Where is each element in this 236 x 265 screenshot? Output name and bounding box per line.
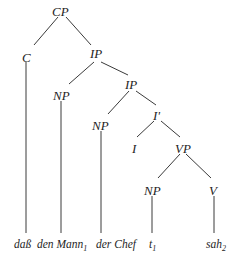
node-i-bar: I' [152,108,160,123]
edge-ibar-vp [161,121,180,137]
tree-svg: CP C IP NP IP NP I' I VP NP V daß den Ma… [0,0,236,265]
edge-ibar-i [137,121,154,137]
node-ip-1: IP [89,46,102,61]
edge-vp-v [186,154,211,178]
edge-cp-ip [66,17,91,45]
node-np-1: NP [52,88,70,103]
leaf-der-chef: der Chef [96,238,138,251]
node-np-2: NP [91,118,109,133]
edge-ip-ip [101,62,128,75]
leaf-trace-index: 1 [152,244,156,253]
leaf-den-mann: den Mann1 [37,238,87,253]
leaf-sah-text: sah [206,238,222,250]
leaf-sah-index: 2 [222,244,226,253]
leaf-den-mann-index: 1 [83,244,87,253]
node-vp: VP [175,141,191,156]
edge-cp-c [34,17,58,45]
leaf-der-chef-text: der Chef [96,238,138,251]
edge-ip2-ibar [136,91,156,105]
node-c: C [22,50,31,65]
node-ip-2: IP [124,77,137,92]
node-v: V [209,183,219,198]
syntax-tree-diagram: CP C IP NP IP NP I' I VP NP V daß den Ma… [0,0,236,265]
node-i: I [131,141,137,156]
leaf-den-mann-text: den Mann [37,238,84,250]
leaf-trace: t1 [149,238,156,253]
leaf-sah: sah2 [206,238,226,253]
edge-vp-np [158,154,180,178]
leaf-dass-text: daß [14,238,32,250]
node-np-3: NP [143,183,161,198]
node-cp: CP [52,4,69,19]
edge-ip-np [69,62,94,84]
edge-ip2-np [108,91,129,114]
leaf-dass: daß [14,238,32,250]
